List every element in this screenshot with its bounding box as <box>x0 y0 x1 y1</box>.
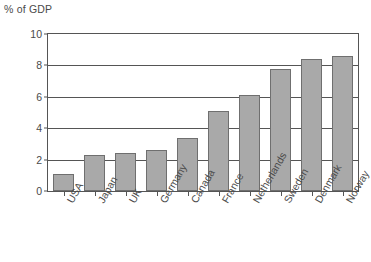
x-tick-mark <box>312 192 313 196</box>
x-tick-mark <box>343 192 344 196</box>
y-axis-label: % of GDP <box>4 3 52 15</box>
plot-area: 0246810 <box>47 33 359 192</box>
x-tick-mark <box>157 192 158 196</box>
x-axis: USAJapanUKGermanyCanadaFranceNetherlands… <box>47 192 359 262</box>
x-tick-mark <box>64 192 65 196</box>
plot-inner: 0246810 <box>48 34 358 191</box>
y-tick-label: 8 <box>36 59 42 71</box>
x-tick-mark <box>188 192 189 196</box>
y-tick-label: 10 <box>30 28 42 40</box>
x-tick-mark <box>126 192 127 196</box>
y-tick-label: 0 <box>36 185 42 197</box>
x-tick-mark <box>250 192 251 196</box>
x-tick-mark <box>95 192 96 196</box>
y-tick-label: 4 <box>36 122 42 134</box>
bars-group <box>48 34 358 191</box>
y-tick-label: 6 <box>36 91 42 103</box>
x-tick-mark <box>281 192 282 196</box>
x-tick-mark <box>219 192 220 196</box>
y-tick-label: 2 <box>36 154 42 166</box>
